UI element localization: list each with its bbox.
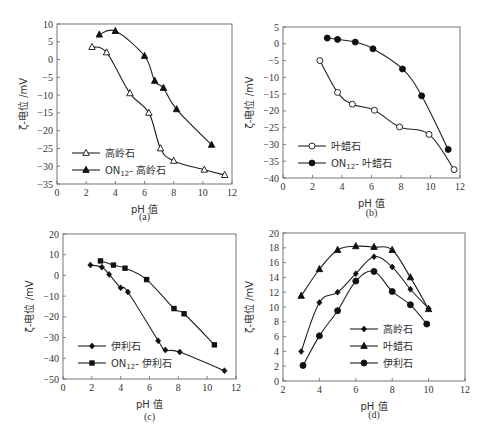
plot-frame: [57, 24, 232, 184]
y-tick-label: 10: [49, 249, 59, 260]
y-axis-label: ζ-电位 /mV: [243, 281, 255, 333]
legend-label: ON12- 叶蜡石: [331, 158, 392, 172]
x-tick-label: 8: [399, 181, 404, 192]
y-tick-label: −35: [37, 179, 53, 190]
diamond-marker-icon: [361, 326, 366, 332]
y-axis-label: ζ-电位 /mV: [23, 280, 35, 332]
y-tick-label: 0: [48, 54, 53, 65]
y-tick-label: 8: [274, 316, 279, 327]
diamond-marker-icon: [99, 264, 104, 270]
y-tick-label: 10: [269, 302, 279, 313]
y-tick-label: 18: [269, 242, 279, 253]
y-tick-label: 2: [274, 361, 279, 372]
circle-marker-icon: [426, 131, 432, 137]
legend-item: 伊利石: [350, 358, 413, 369]
figure: 0246810121050−5−10−15−20−25−30−35pH 值ζ-电…: [0, 0, 488, 444]
circle-marker-icon: [352, 39, 358, 45]
x-tick-label: 8: [390, 384, 395, 395]
y-tick-label: −40: [263, 173, 279, 184]
legend-label: ON12- 高岭石: [105, 164, 166, 179]
triangle-marker-icon: [361, 342, 367, 348]
y-tick-label: 20: [49, 229, 59, 240]
x-tick-label: 4: [340, 181, 345, 192]
legend-item: ON12- 高岭石: [72, 164, 166, 179]
legend-item: 高岭石: [72, 147, 135, 159]
y-tick-label: 6: [274, 331, 279, 342]
x-tick-label: 4: [317, 384, 322, 395]
series-line: [99, 30, 211, 145]
triangle-marker-icon: [152, 77, 158, 83]
legend-item: 伊利石: [78, 341, 141, 352]
square-marker-icon: [212, 342, 217, 347]
x-tick-label: 0: [281, 181, 286, 192]
series-line: [100, 261, 214, 345]
triangle-marker-icon: [89, 43, 95, 49]
diamond-marker-icon: [371, 254, 376, 260]
x-tick-label: 4: [113, 187, 118, 198]
series-a-1: [96, 27, 215, 147]
y-tick-label: −40: [43, 353, 59, 364]
x-tick-label: 12: [455, 181, 465, 192]
x-tick-label: 4: [118, 382, 123, 393]
y-axis-label: ζ-电位 /mV: [243, 76, 255, 128]
panel-caption: (d): [368, 409, 380, 421]
x-tick-label: 2: [84, 187, 89, 198]
legend-label: 高岭石: [383, 323, 413, 335]
circle-marker-icon: [300, 362, 306, 368]
legend-label: 高岭石: [105, 147, 135, 159]
circle-marker-icon: [399, 66, 405, 72]
legend-label: 伊利石: [111, 341, 141, 352]
x-tick-label: 8: [171, 187, 176, 198]
circle-marker-icon: [424, 321, 430, 327]
square-marker-icon: [181, 311, 186, 316]
y-tick-label: −30: [37, 161, 53, 172]
y-tick-label: −10: [263, 72, 279, 83]
x-tick-label: 6: [142, 187, 147, 198]
triangle-marker-icon: [83, 166, 89, 172]
x-tick-label: 0: [55, 187, 60, 198]
diamond-marker-icon: [88, 262, 93, 268]
circle-marker-icon: [309, 143, 315, 149]
series-b-0: [317, 58, 457, 173]
y-tick-label: −25: [263, 122, 279, 133]
triangle-marker-icon: [389, 246, 395, 252]
chart-panel-c: 02468101220100−10−20−30−40−50pH 值ζ-电位 /m…: [23, 229, 241, 424]
y-tick-label: 20: [269, 228, 279, 239]
legend-item: 叶蜡石: [350, 341, 413, 352]
circle-marker-icon: [407, 302, 413, 308]
diamond-marker-icon: [89, 343, 94, 349]
x-tick-label: 10: [198, 187, 208, 198]
x-tick-label: 12: [460, 384, 470, 395]
square-marker-icon: [171, 306, 176, 311]
circle-marker-icon: [335, 308, 341, 314]
circle-marker-icon: [371, 268, 377, 274]
y-tick-label: 0: [274, 38, 279, 49]
y-tick-label: −10: [43, 291, 59, 302]
y-tick-label: 0: [274, 376, 279, 387]
diamond-marker-icon: [177, 349, 182, 355]
y-tick-label: −15: [37, 107, 53, 118]
circle-marker-icon: [370, 46, 376, 52]
square-marker-icon: [111, 262, 116, 267]
chart-panel-d: 2468101220181614121086420pH 值ζ-电位 /mV(d)…: [243, 228, 470, 422]
y-tick-label: −15: [263, 89, 279, 100]
y-tick-label: −30: [43, 332, 59, 343]
y-tick-label: −30: [263, 139, 279, 150]
y-axis-label: ζ-电位 /mV: [17, 78, 29, 130]
x-tick-label: 6: [147, 382, 152, 393]
square-marker-icon: [89, 360, 94, 365]
diamond-marker-icon: [299, 348, 304, 354]
legend-label: ON12- 伊利石: [111, 358, 172, 372]
triangle-marker-icon: [157, 145, 163, 151]
y-tick-label: −5: [42, 72, 53, 83]
square-marker-icon: [144, 277, 149, 282]
y-tick-label: −25: [37, 143, 53, 154]
square-marker-icon: [98, 258, 103, 263]
y-tick-label: 4: [274, 346, 279, 357]
x-tick-label: 2: [310, 181, 315, 192]
x-tick-label: 2: [89, 382, 94, 393]
y-tick-label: −20: [263, 105, 279, 116]
legend-item: 高岭石: [350, 323, 413, 335]
y-tick-label: −35: [263, 156, 279, 167]
circle-marker-icon: [353, 278, 359, 284]
